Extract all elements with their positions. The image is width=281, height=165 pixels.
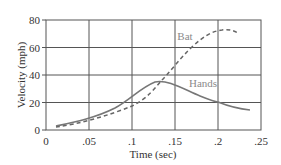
y-tick-60: 60 bbox=[29, 42, 41, 54]
bat-series-label: Bat bbox=[177, 30, 192, 42]
x-tick-2: .2 bbox=[214, 135, 222, 147]
x-tick-25: .25 bbox=[254, 135, 268, 147]
grid bbox=[46, 20, 261, 130]
y-tick-80: 80 bbox=[29, 14, 41, 26]
y-tick-40: 40 bbox=[29, 69, 41, 81]
hands-series-label: Hands bbox=[189, 77, 217, 89]
x-axis-label: Time (sec) bbox=[130, 148, 177, 161]
y-tick-0: 0 bbox=[35, 124, 41, 136]
tick-marks bbox=[42, 20, 46, 130]
y-axis-label: Velocity (mph) bbox=[15, 42, 28, 109]
x-tick-1: .1 bbox=[128, 135, 136, 147]
velocity-chart: 80 60 40 20 0 0 .05 .1 .15 .2 .25 Time (… bbox=[0, 0, 281, 165]
x-tick-15: .15 bbox=[168, 135, 182, 147]
x-tick-05: .05 bbox=[82, 135, 96, 147]
y-tick-20: 20 bbox=[29, 97, 41, 109]
hands-series-line bbox=[56, 81, 250, 126]
x-tick-0: 0 bbox=[43, 135, 49, 147]
